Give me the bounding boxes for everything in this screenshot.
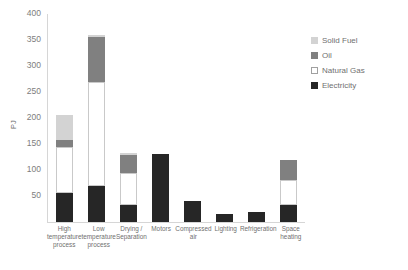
legend-item-label: Oil — [322, 51, 332, 60]
bar-slot — [209, 14, 241, 222]
legend-swatch-icon — [311, 37, 318, 44]
y-axis-tick-label: 200 — [17, 113, 41, 122]
legend-item[interactable]: Oil — [311, 48, 405, 63]
bar-segment-oil[interactable] — [120, 155, 137, 172]
y-axis-tick-label: 150 — [17, 139, 41, 148]
y-axis-tick-label: 100 — [17, 165, 41, 174]
bar-slot — [241, 14, 273, 222]
x-axis-tick-label: Drying / Separation — [116, 225, 147, 269]
bar-slot — [177, 14, 209, 222]
bar-slot — [80, 14, 112, 222]
bar-segment-oil[interactable] — [280, 160, 297, 180]
y-axis-tick-label: 50 — [17, 191, 41, 200]
y-axis-tick-label: 300 — [17, 61, 41, 70]
bar-segment-natural-gas[interactable] — [120, 173, 137, 205]
x-axis-tick-label: Space heating — [277, 225, 305, 269]
bar-slot — [144, 14, 176, 222]
legend-item[interactable]: Solid Fuel — [311, 33, 405, 48]
bar-segment-electricity[interactable] — [152, 154, 169, 222]
bar-segment-electricity[interactable] — [120, 205, 137, 222]
x-axis-tick-label: Compressed air — [175, 225, 211, 269]
stacked-bar[interactable] — [280, 160, 297, 222]
bar-segment-solid-fuel[interactable] — [56, 115, 73, 140]
plot-area — [47, 14, 305, 222]
legend-item[interactable]: Natural Gas — [311, 63, 405, 78]
bar-slot — [273, 14, 305, 222]
legend-item-label: Electricity — [322, 81, 356, 90]
bar-segment-electricity[interactable] — [56, 193, 73, 222]
y-axis-tick-label: 400 — [17, 9, 41, 18]
x-axis-tick-labels: High temperature processLow temperature … — [47, 225, 305, 269]
stacked-bar[interactable] — [248, 212, 265, 222]
chart-legend: Solid FuelOilNatural GasElectricity — [311, 33, 405, 93]
legend-item-label: Solid Fuel — [322, 36, 358, 45]
stacked-bar[interactable] — [120, 153, 137, 222]
stacked-bar[interactable] — [152, 154, 169, 222]
bar-segment-natural-gas[interactable] — [88, 82, 105, 186]
stacked-bar[interactable] — [216, 214, 233, 222]
bar-segment-electricity[interactable] — [248, 212, 265, 222]
bar-segment-natural-gas[interactable] — [56, 147, 73, 194]
bar-chart: PJ 50100150200250300350400 High temperat… — [0, 0, 408, 270]
bar-segment-natural-gas[interactable] — [280, 180, 297, 205]
legend-item[interactable]: Electricity — [311, 78, 405, 93]
x-axis-tick-label: Lighting — [212, 225, 240, 269]
y-axis-tick-label: 250 — [17, 87, 41, 96]
bar-segment-electricity[interactable] — [184, 201, 201, 222]
y-axis-tick-labels: 50100150200250300350400 — [17, 0, 41, 270]
bar-segment-electricity[interactable] — [88, 186, 105, 222]
x-axis-tick-label: Low temperature process — [81, 225, 115, 269]
legend-swatch-icon — [311, 52, 318, 59]
bar-slot — [48, 14, 80, 222]
bar-segment-electricity[interactable] — [216, 214, 233, 222]
bar-segment-electricity[interactable] — [280, 205, 297, 222]
x-axis-line — [47, 222, 305, 223]
y-axis-tick-label: 350 — [17, 35, 41, 44]
stacked-bar[interactable] — [88, 35, 105, 222]
x-axis-tick-label: High temperature process — [47, 225, 81, 269]
x-axis-tick-label: Motors — [147, 225, 175, 269]
stacked-bar[interactable] — [56, 115, 73, 222]
legend-item-label: Natural Gas — [322, 66, 365, 75]
bars-layer — [48, 14, 305, 222]
bar-segment-oil[interactable] — [88, 37, 105, 81]
bar-slot — [112, 14, 144, 222]
legend-swatch-icon — [311, 67, 318, 74]
legend-swatch-icon — [311, 82, 318, 89]
x-axis-tick-label: Refrigeration — [240, 225, 277, 269]
stacked-bar[interactable] — [184, 201, 201, 222]
